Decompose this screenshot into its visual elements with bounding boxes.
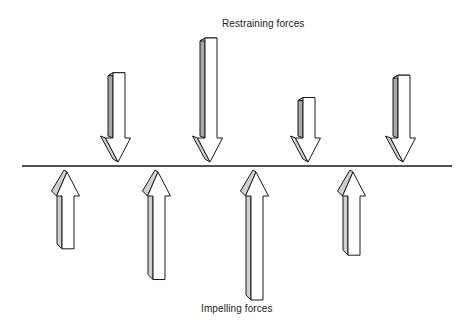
force-field-diagram: [0, 0, 473, 323]
arrow-side-face: [298, 98, 303, 138]
arrow-side-face: [393, 75, 398, 138]
impelling-arrow-2: [143, 170, 171, 280]
arrow-side-face: [343, 193, 348, 255]
restraining-arrow-3: [291, 98, 321, 162]
impelling-arrow-1: [52, 170, 80, 249]
impelling-arrow-4: [338, 170, 366, 255]
arrow-side-face: [148, 193, 153, 280]
restraining-arrow-4: [386, 75, 416, 162]
arrow-side-face: [108, 73, 113, 138]
arrow-side-face: [57, 193, 62, 249]
arrow-side-face: [246, 193, 251, 300]
arrow-side-face: [200, 38, 205, 138]
impelling-arrows: [52, 170, 366, 300]
restraining-arrow-1: [101, 73, 131, 162]
impelling-arrow-3: [241, 170, 269, 300]
restraining-arrow-2: [193, 38, 223, 162]
restraining-arrows: [101, 38, 416, 162]
